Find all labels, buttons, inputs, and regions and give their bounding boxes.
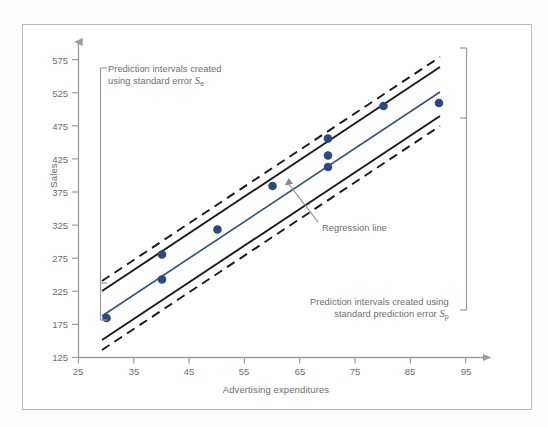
data-point	[324, 163, 333, 172]
data-point	[268, 182, 277, 191]
annotation-upper-band-line2: using standard error	[108, 76, 195, 86]
data-point	[102, 314, 111, 323]
y-tick-label: 525	[42, 88, 68, 99]
scatter-points	[102, 99, 443, 323]
data-point	[379, 102, 388, 111]
x-tick-label: 85	[399, 366, 421, 377]
data-point	[435, 99, 444, 108]
annotation-upper-band: Prediction intervals created using stand…	[108, 63, 222, 89]
x-tick-label: 35	[123, 366, 145, 377]
x-tick-label: 45	[178, 366, 200, 377]
upper-band-bracket	[101, 68, 108, 320]
x-tick-label: 25	[67, 366, 89, 377]
chart-canvas	[0, 0, 548, 427]
data-point	[213, 225, 222, 234]
annotation-lower-band-subscript: p	[445, 313, 449, 320]
x-axis	[79, 358, 488, 364]
annotation-lower-band-line2: standard prediction error	[334, 309, 439, 319]
x-tick-label: 55	[233, 366, 255, 377]
confidence-band-upper	[102, 67, 440, 291]
lower-band-bracket	[460, 48, 467, 310]
annotation-lower-band-line1: Prediction intervals created using	[310, 297, 449, 307]
x-tick-label: 95	[455, 366, 477, 377]
annotation-regression-line: Regression line	[322, 222, 387, 234]
x-tick-label: 65	[289, 366, 311, 377]
figure-container: 125 175 225 275 325 375 425 475 525 575 …	[0, 0, 548, 427]
prediction-band-upper	[102, 57, 440, 281]
data-point	[158, 275, 167, 284]
y-tick-label: 175	[42, 319, 68, 330]
x-tick-label: 75	[344, 366, 366, 377]
annotation-lower-band: Prediction intervals created using stand…	[310, 296, 449, 322]
y-tick-label: 325	[42, 220, 68, 231]
data-point	[324, 151, 333, 160]
x-axis-title: Advertising expenditures	[176, 384, 376, 395]
annotation-lower-band-symbol: S	[439, 308, 444, 319]
regression-line	[102, 92, 440, 316]
y-tick-label: 575	[42, 55, 68, 66]
y-tick-label: 275	[42, 253, 68, 264]
y-axis-title: Sales	[48, 146, 59, 206]
y-axis	[72, 42, 79, 358]
y-tick-label: 125	[42, 352, 68, 363]
y-tick-label: 475	[42, 121, 68, 132]
data-point	[324, 134, 333, 143]
data-point	[158, 250, 167, 259]
y-tick-label: 225	[42, 286, 68, 297]
annotation-upper-band-line1: Prediction intervals created	[108, 64, 222, 74]
annotation-upper-band-subscript: e	[200, 80, 204, 87]
